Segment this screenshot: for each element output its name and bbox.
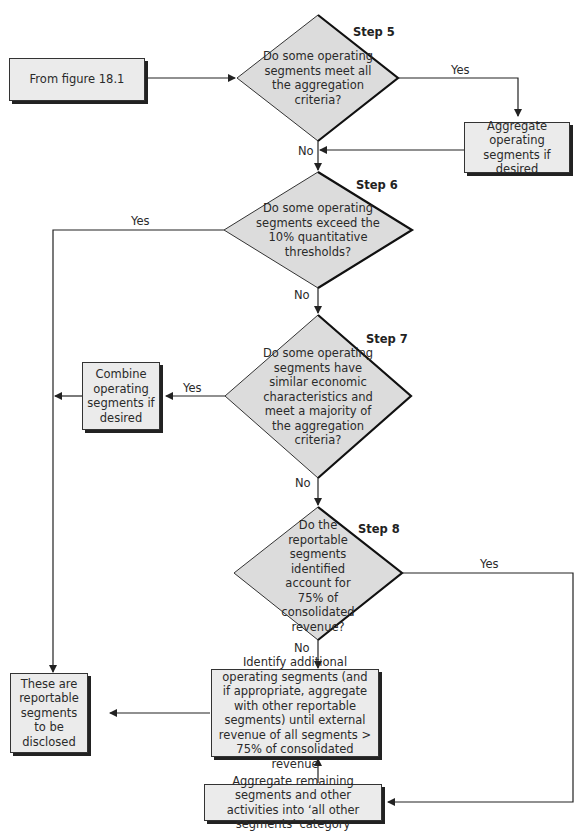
aggregate-remaining-text: Aggregate remaining segments and other a…: [209, 774, 377, 832]
edge-label-step5-no: No: [298, 144, 314, 158]
edge-label-step7-no: No: [295, 476, 311, 490]
edge-label-step8-no: No: [294, 641, 310, 655]
edge-label-step7-yes: Yes: [183, 381, 202, 395]
reportable-segments-text: These are reportable segments to be disc…: [15, 677, 83, 750]
step-8-question: Do the reportable segments identified ac…: [272, 532, 364, 620]
aggregate-if-desired-box: Aggregate operating segments if desired: [464, 122, 570, 173]
aggregate-remaining-box: Aggregate remaining segments and other a…: [204, 784, 382, 821]
edge-label-step6-no: No: [294, 288, 310, 302]
combine-if-desired-text: Combine operating segments if desired: [87, 367, 155, 425]
reportable-segments-box: These are reportable segments to be disc…: [10, 673, 88, 753]
start-label: From figure 18.1: [30, 72, 125, 87]
step-5-label: Step 5: [353, 25, 395, 39]
identify-additional-box: Identify additional operating segments (…: [211, 669, 379, 757]
combine-if-desired-box: Combine operating segments if desired: [82, 362, 160, 430]
aggregate-if-desired-text: Aggregate operating segments if desired: [469, 119, 565, 177]
start-box-from-figure: From figure 18.1: [9, 58, 145, 101]
step-8-label: Step 8: [358, 522, 400, 536]
step-6-question: Do some operating segments exceed the 10…: [246, 200, 390, 260]
edge-label-step8-yes: Yes: [480, 557, 499, 571]
step-5-question: Do some operating segments meet all the …: [255, 48, 381, 108]
edge-label-step6-yes: Yes: [131, 214, 150, 228]
identify-additional-text: Identify additional operating segments (…: [218, 655, 372, 771]
step-7-label: Step 7: [366, 332, 408, 346]
step-7-question: Do some operating segments have similar …: [254, 345, 382, 449]
edge-label-step5-yes: Yes: [451, 63, 470, 77]
step-6-label: Step 6: [356, 178, 398, 192]
